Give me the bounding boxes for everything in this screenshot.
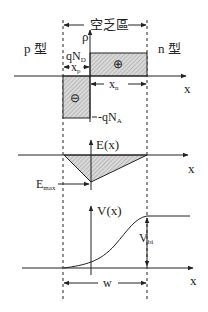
qna-label: -qNA: [98, 111, 122, 125]
potential-curve: [64, 216, 190, 268]
n-type-label: n 型: [158, 42, 181, 55]
p-type-label: p 型: [24, 42, 47, 55]
plus-icon: ⊕: [113, 58, 123, 70]
xp-label: xp: [71, 61, 81, 75]
potential-axis-label: V(x): [97, 204, 122, 217]
emax-label: Emax: [36, 178, 55, 192]
xn-label: xn: [109, 78, 119, 92]
field-axis-label: E(x): [96, 138, 119, 151]
depletion-region-title: 空乏區: [90, 18, 129, 31]
vbi-label: Vbi: [139, 232, 153, 246]
field-triangle: [64, 155, 147, 182]
potential-x-label: x: [190, 274, 197, 287]
field-x-label: x: [188, 162, 195, 175]
minus-icon: ⊖: [70, 92, 80, 104]
charge-x-label: x: [184, 82, 191, 95]
rho-axis-label: ρ: [82, 30, 89, 43]
width-label: w: [103, 277, 112, 289]
